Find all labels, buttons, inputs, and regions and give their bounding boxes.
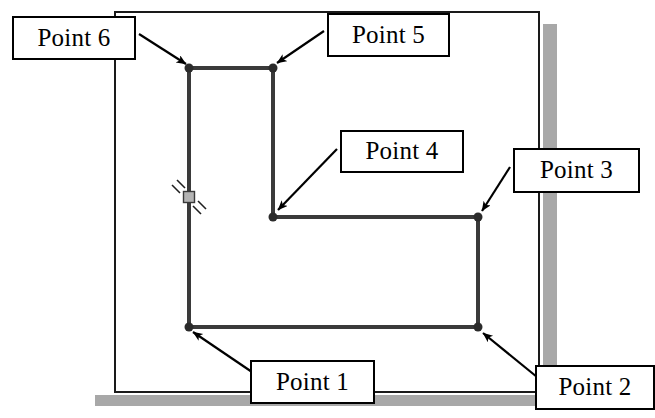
callout-point-6[interactable]: Point 6 <box>12 16 136 60</box>
callout-point-1[interactable]: Point 1 <box>250 360 375 404</box>
callout-point-5-label: Point 5 <box>352 22 425 49</box>
callout-point-3[interactable]: Point 3 <box>513 148 640 193</box>
vertex-dot-p3[interactable] <box>474 213 483 222</box>
callout-point-4[interactable]: Point 4 <box>340 130 464 173</box>
callout-point-2[interactable]: Point 2 <box>535 365 655 410</box>
diagram-vector-layer <box>0 0 655 418</box>
callout-point-3-label: Point 3 <box>540 157 613 184</box>
drawing-window-frame <box>115 12 539 392</box>
callout-point-5[interactable]: Point 5 <box>327 13 450 57</box>
callout-point-4-label: Point 4 <box>366 138 439 165</box>
callout-point-6-label: Point 6 <box>38 25 111 52</box>
vertex-dot-p5[interactable] <box>269 64 278 73</box>
grip-square[interactable] <box>184 192 195 203</box>
vertex-dot-p4[interactable] <box>269 213 278 222</box>
vertex-dot-p6[interactable] <box>185 64 194 73</box>
callout-point-1-label: Point 1 <box>276 369 349 396</box>
callout-point-2-label: Point 2 <box>559 374 632 401</box>
vertex-dot-p1[interactable] <box>185 323 194 332</box>
diagram-canvas: Point 6 Point 5 Point 4 Point 3 Point 1 … <box>0 0 655 418</box>
vertex-dot-p2[interactable] <box>474 323 483 332</box>
